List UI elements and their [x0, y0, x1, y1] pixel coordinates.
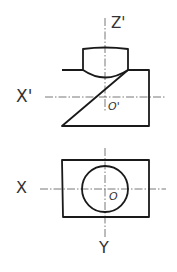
label-z-prime: Z' — [111, 16, 125, 31]
top-view — [40, 148, 166, 238]
label-origin: O — [109, 191, 118, 202]
label-origin-prime: O' — [108, 101, 120, 112]
front-view — [45, 18, 166, 126]
label-x: X — [16, 180, 27, 196]
label-y: Y — [99, 240, 109, 256]
drawing-canvas — [0, 0, 177, 272]
base-rectangle — [62, 160, 149, 217]
label-x-prime: X' — [16, 88, 32, 105]
upper-boss-outline — [83, 48, 128, 71]
